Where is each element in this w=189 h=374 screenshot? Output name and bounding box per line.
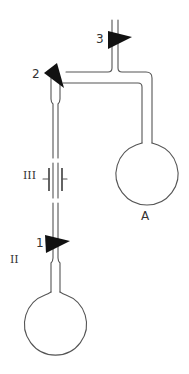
label-valve-3: 3 [96,32,104,46]
flask-a [116,143,178,205]
valve-2-icon[interactable] [44,63,64,88]
apparatus-diagram: 3 2 1 A II III [0,0,189,374]
valve-3-icon[interactable] [108,31,132,49]
label-section-ii: II [10,253,19,266]
label-valve-1: 1 [36,236,44,250]
flask-ii [25,292,87,355]
label-section-iii: III [23,169,36,182]
horizontal-connector-tube [63,83,142,143]
label-valve-2: 2 [32,67,40,81]
left-column-upper [51,78,60,158]
electrode-plates [43,163,67,198]
label-flask-a: A [141,209,150,223]
